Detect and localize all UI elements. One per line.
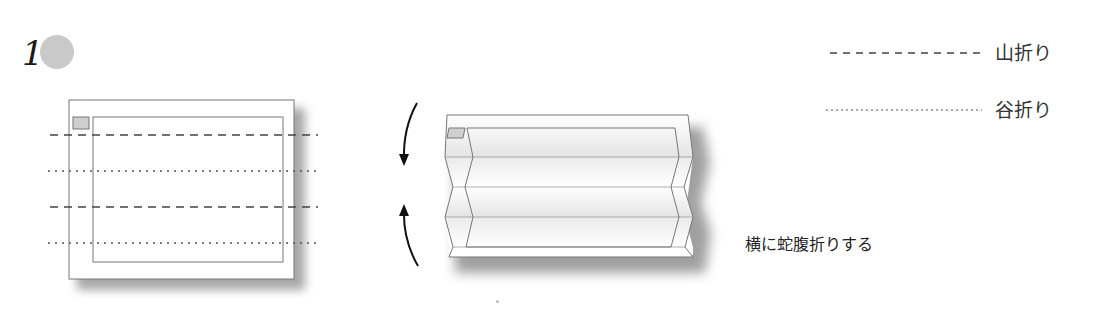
arrow-down-head-icon <box>399 154 409 166</box>
valley-fold-legend-line-icon <box>826 102 986 122</box>
step-number: 1 <box>22 36 44 70</box>
accordion-folded-sheet-diagram <box>435 105 725 285</box>
corner-marker-icon <box>73 117 89 129</box>
arrow-up-icon <box>404 210 418 266</box>
fold-direction-arrows <box>395 98 435 273</box>
arrow-down-icon <box>404 103 417 160</box>
legend-valley-fold-label: 谷折り <box>995 100 1052 120</box>
legend-mountain-fold-label: 山折り <box>995 43 1052 63</box>
step-circle-decoration <box>40 35 74 69</box>
arrow-up-head-icon <box>399 204 409 216</box>
corner-marker-icon <box>447 128 465 138</box>
stray-dot-decoration <box>496 300 499 303</box>
flat-sheet-diagram <box>40 90 340 305</box>
mountain-fold-legend-line-icon <box>826 45 986 65</box>
step-caption: 横に蛇腹折りする <box>745 236 873 254</box>
sheet-outline <box>69 100 294 279</box>
